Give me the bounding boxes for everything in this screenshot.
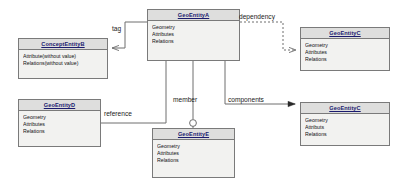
entity-box-conceptEntityB[interactable]: ConceptEntityB Attribute(without value) … <box>18 38 108 79</box>
entity-box-geoEntityC2[interactable]: GeoEntityC Geometry Attributs Relations <box>300 102 390 146</box>
attribute-row: Attributes <box>152 31 235 38</box>
attribute-row: Geometry <box>152 24 235 31</box>
attribute-row: Relations <box>23 128 96 135</box>
entity-attributes-conceptEntityB: Attribute(without value) Relations(witho… <box>19 50 107 78</box>
attribute-row: Relations <box>157 157 230 164</box>
attribute-row: Relations <box>305 56 385 63</box>
attribute-row: Attribute(without value) <box>23 53 103 60</box>
entity-title-geoEntityD: GeoEntityD <box>19 100 100 111</box>
edge-dependency <box>240 22 296 50</box>
entity-attributes-geoEntityC2: Geometry Attributs Relations <box>301 114 389 145</box>
attribute-row: Relations(without value) <box>23 60 103 67</box>
attribute-row: Attributes <box>23 121 96 128</box>
entity-title-geoEntityC1: GeoEntityC <box>301 28 389 39</box>
entity-box-geoEntityE[interactable]: GeoEntityE Geometry Attributes Relations <box>152 128 235 178</box>
attribute-row: Attributs <box>305 124 385 131</box>
entity-title-geoEntityA: GeoEntityA <box>148 10 239 21</box>
entity-title-geoEntityE: GeoEntityE <box>153 129 234 140</box>
edge-label-member: member <box>173 96 197 104</box>
edge-label-reference: reference <box>104 110 132 118</box>
edge-member <box>190 61 197 128</box>
attribute-row: Geometry <box>157 143 230 150</box>
entity-attributes-geoEntityE: Geometry Attributes Relations <box>153 140 234 177</box>
entity-attributes-geoEntityC1: Geometry Attributes Relations <box>301 39 389 70</box>
edge-label-components: components <box>228 96 264 104</box>
entity-attributes-geoEntityA: Geometry Attributes Relations <box>148 21 239 60</box>
attribute-row: Relations <box>305 131 385 138</box>
attribute-row: Relations <box>152 38 235 45</box>
uml-diagram-canvas: GeoEntityA Geometry Attributes Relations… <box>0 0 395 187</box>
attribute-row: Geometry <box>305 117 385 124</box>
entity-title-conceptEntityB: ConceptEntityB <box>19 39 107 50</box>
entity-box-geoEntityD[interactable]: GeoEntityD Geometry Attributes Relations <box>18 99 101 147</box>
entity-box-geoEntityC1[interactable]: GeoEntityC Geometry Attributes Relations <box>300 27 390 71</box>
edge-label-dependency: dependency <box>239 13 275 21</box>
entity-box-geoEntityA[interactable]: GeoEntityA Geometry Attributes Relations <box>147 9 240 61</box>
attribute-row: Geometry <box>23 114 96 121</box>
attribute-row: Attributes <box>305 49 385 56</box>
entity-title-geoEntityC2: GeoEntityC <box>301 103 389 114</box>
attribute-row: Geometry <box>305 42 385 49</box>
attribute-row: Attributes <box>157 150 230 157</box>
entity-attributes-geoEntityD: Geometry Attributes Relations <box>19 111 100 146</box>
edge-label-tag: tag <box>112 25 121 33</box>
